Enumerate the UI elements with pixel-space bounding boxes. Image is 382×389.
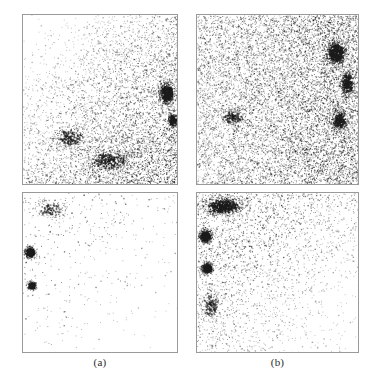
- subfigure-caption-a: (a): [22, 356, 178, 368]
- scatter-panel-b-top: [196, 14, 359, 185]
- subfigure-caption-b: (b): [196, 356, 359, 368]
- scatter-panel-a-bottom: [22, 192, 178, 353]
- scatter-canvas-b-top: [197, 15, 358, 184]
- scatter-canvas-b-bottom: [197, 193, 358, 352]
- figure-container: (a) (b): [0, 0, 382, 389]
- scatter-canvas-a-bottom: [23, 193, 177, 352]
- scatter-panel-b-bottom: [196, 192, 359, 353]
- scatter-canvas-a-top: [23, 15, 177, 184]
- scatter-panel-a-top: [22, 14, 178, 185]
